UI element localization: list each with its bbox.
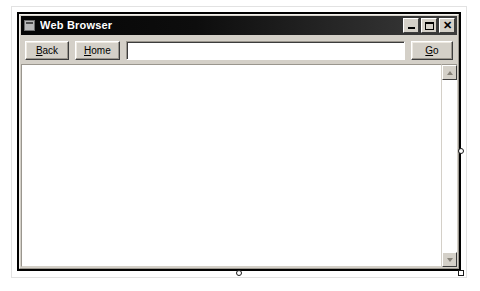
back-button[interactable]: Back	[25, 41, 69, 60]
browser-content-area	[21, 64, 457, 267]
window-controls: ✕	[403, 18, 455, 33]
scroll-up-arrow-icon	[447, 71, 453, 75]
scroll-up-button[interactable]	[442, 65, 457, 80]
resize-handle-bottom-right[interactable]	[458, 270, 464, 276]
home-button-label: ome	[91, 45, 110, 56]
scroll-down-arrow-icon	[447, 258, 453, 262]
address-bar[interactable]	[126, 41, 405, 60]
browser-toolbar: Back Home Go	[21, 37, 457, 63]
page-view[interactable]	[21, 64, 442, 267]
window-titlebar[interactable]: Web Browser ✕	[21, 16, 457, 35]
minimize-icon	[404, 19, 418, 32]
web-browser-window[interactable]: Web Browser ✕ Back Home Go	[17, 12, 461, 271]
resize-handle-right-middle[interactable]	[458, 148, 464, 154]
go-button[interactable]: Go	[411, 41, 453, 60]
back-button-label: ack	[43, 45, 59, 56]
close-button[interactable]: ✕	[439, 18, 455, 33]
scroll-down-button[interactable]	[442, 252, 457, 267]
back-button-mnemonic: B	[36, 45, 43, 56]
resize-handle-bottom-center[interactable]	[236, 270, 242, 276]
maximize-button[interactable]	[421, 18, 437, 33]
maximize-icon	[422, 19, 436, 32]
close-icon: ✕	[440, 19, 454, 32]
go-button-label: o	[433, 45, 439, 56]
designer-canvas: Web Browser ✕ Back Home Go	[0, 0, 480, 291]
scrollbar-track[interactable]	[442, 80, 457, 252]
window-title: Web Browser	[40, 16, 403, 35]
home-button[interactable]: Home	[75, 41, 120, 60]
window-document-icon	[23, 19, 36, 32]
address-input[interactable]	[127, 42, 404, 59]
minimize-button[interactable]	[403, 18, 419, 33]
vertical-scrollbar[interactable]	[442, 64, 457, 267]
go-button-mnemonic: G	[425, 45, 433, 56]
